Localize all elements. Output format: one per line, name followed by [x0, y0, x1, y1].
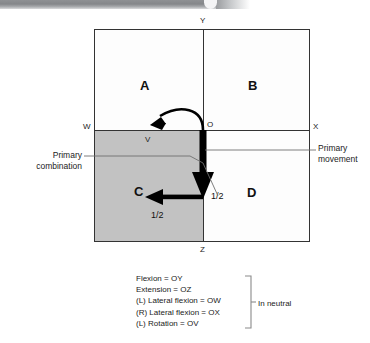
legend-line-left-rotation: (L) Rotation = OV — [136, 318, 221, 329]
legend-brace — [245, 276, 256, 328]
callout-primary-combination-line1: Primary — [53, 150, 82, 160]
legend-list: Flexion = OY Extension = OZ (L) Lateral … — [136, 273, 221, 329]
quadrant-label-a: A — [140, 79, 149, 92]
legend-line-flexion: Flexion = OY — [136, 273, 221, 284]
axis-label-y: Y — [200, 17, 205, 25]
callout-primary-combination-line2: combination — [36, 161, 82, 171]
axis-label-x: X — [313, 123, 318, 131]
axis-label-z: Z — [200, 246, 205, 254]
axis-label-v: V — [145, 136, 150, 144]
quadrant-label-d: D — [247, 186, 256, 199]
legend-note-in-neutral: In neutral — [258, 300, 291, 308]
fraction-label-left-arrow: 1/2 — [151, 211, 164, 220]
quadrant-label-c: C — [134, 185, 143, 198]
callout-primary-movement: Primary movement — [318, 143, 358, 165]
quadrant-label-b: B — [248, 79, 257, 92]
top-banner — [0, 0, 222, 9]
vertical-axis-yz — [203, 29, 204, 242]
callout-primary-movement-line1: Primary — [318, 143, 347, 153]
fraction-label-down-arrow: 1/2 — [211, 192, 224, 201]
diagram-page: Y W X Z O V A B C D 1/2 1/2 Primary comb… — [0, 0, 370, 343]
legend-line-extension: Extension = OZ — [136, 284, 221, 295]
callout-primary-combination: Primary combination — [10, 150, 82, 172]
axis-label-o: O — [207, 121, 213, 129]
shaded-quadrant-c — [95, 130, 203, 241]
horizontal-axis-wx — [94, 130, 310, 131]
axis-label-w: W — [83, 123, 91, 131]
legend-line-left-lateral-flexion: (L) Lateral flexion = OW — [136, 295, 221, 306]
top-banner-tail — [216, 0, 250, 9]
callout-primary-movement-line2: movement — [318, 154, 358, 164]
legend-line-right-lateral-flexion: (R) Lateral flexion = OX — [136, 307, 221, 318]
